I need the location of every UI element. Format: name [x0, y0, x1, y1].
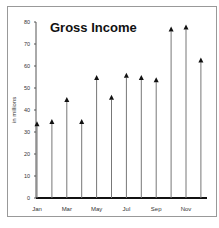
- y-tick-label: 40: [24, 107, 30, 113]
- x-tick-label: Jan: [32, 206, 42, 212]
- y-tick-label: 10: [24, 173, 30, 179]
- arrow-marker-icon: [79, 119, 84, 124]
- y-axis-label: in millions: [11, 97, 17, 123]
- chart-title: Gross Income: [50, 20, 137, 35]
- arrow-marker-icon: [124, 73, 129, 78]
- arrow-marker-icon: [198, 57, 203, 62]
- y-tick-label: 60: [24, 63, 30, 69]
- y-tick-label: 70: [24, 41, 30, 47]
- y-tick-label: 20: [24, 151, 30, 157]
- x-tick-label: Nov: [181, 206, 192, 212]
- y-tick-label: 50: [24, 85, 30, 91]
- arrow-marker-icon: [169, 27, 174, 32]
- y-tick-label: 80: [24, 19, 30, 25]
- arrow-marker-icon: [94, 75, 99, 80]
- arrow-marker-icon: [35, 121, 40, 126]
- x-tick-label: May: [91, 206, 102, 212]
- y-tick-label: 30: [24, 129, 30, 135]
- arrow-marker-icon: [109, 95, 114, 100]
- arrow-marker-icon: [154, 77, 159, 82]
- arrow-marker-icon: [184, 24, 189, 29]
- x-tick-label: Mar: [62, 206, 72, 212]
- x-tick-label: Sep: [151, 206, 162, 212]
- arrow-marker-icon: [64, 97, 69, 102]
- arrow-marker-icon: [139, 75, 144, 80]
- x-tick-label: Jul: [123, 206, 131, 212]
- gross-income-chart: 01020304050607080in millionsJanMarMayJul…: [0, 0, 219, 228]
- y-tick-label: 0: [27, 195, 30, 201]
- arrow-marker-icon: [49, 119, 54, 124]
